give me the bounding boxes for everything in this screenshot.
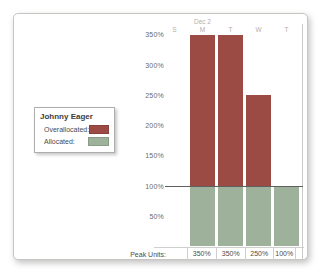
y-axis-tick-label: 300% [122,61,164,70]
screenshot-root: Dec 2 Peak Units: 350%300%250%200%150%10… [0,0,322,276]
day-column-label: W [245,26,273,34]
day-column-label: M [189,26,217,34]
resource-name: Johnny Eager [40,112,109,122]
overallocated-bar-segment [190,35,215,186]
allocated-label: Allocated: [44,137,75,146]
week-start-label: Dec 2 [182,18,223,26]
peak-units-cell: 350% [187,248,217,260]
resource-graph-panel: Dec 2 Peak Units: 350%300%250%200%150%10… [13,13,308,260]
y-axis-tick-label: 200% [122,121,164,130]
legend-box: Johnny Eager Overallocated: Allocated: [34,107,115,153]
y-axis-tick-label: 100% [122,182,164,191]
overallocated-bar-segment [218,35,243,186]
legend-row-allocated: Allocated: [44,137,109,146]
day-column-label: T [273,26,301,34]
y-axis-tick-label: 150% [122,151,164,160]
y-axis-tick-label: 250% [122,91,164,100]
y-axis-tick-label: 50% [122,212,164,221]
day-column-label: S [161,26,189,34]
peak-units-cell: 250% [245,248,274,260]
reference-line-100pct [165,186,303,187]
allocated-bar-segment [190,186,215,246]
overallocated-swatch [89,125,109,134]
allocated-swatch [88,137,109,146]
peak-units-cell: 100% [273,248,296,260]
allocated-bar-segment [218,186,243,246]
overallocated-label: Overallocated: [44,125,89,134]
allocated-bar-segment [274,186,299,246]
allocated-bar-segment [246,186,271,246]
peak-units-label: Peak Units: [72,250,166,259]
legend-row-overallocated: Overallocated: [44,125,109,134]
peak-units-cell: 350% [216,248,245,260]
y-axis-tick-label: 350% [122,30,164,39]
chart-right-boundary-line [302,24,303,259]
day-column-label: T [217,26,245,34]
overallocated-bar-segment [246,95,271,186]
